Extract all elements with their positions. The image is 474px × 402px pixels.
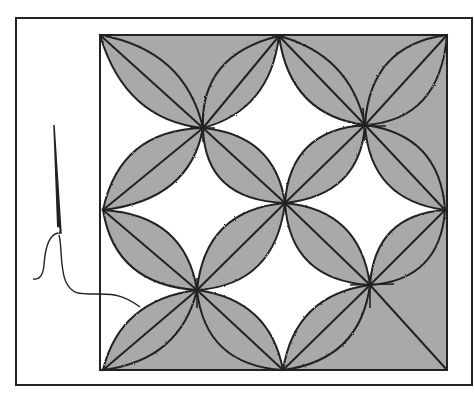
quilt-illustration — [0, 0, 474, 402]
needle-eye — [57, 227, 60, 233]
quilt-block — [100, 35, 447, 370]
